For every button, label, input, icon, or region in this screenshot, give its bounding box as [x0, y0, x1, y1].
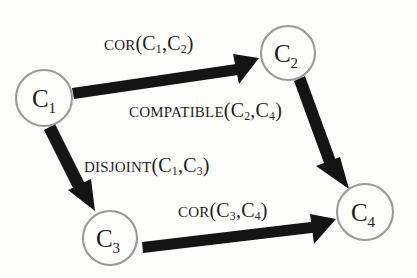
edge-label-disjoint-c1-c3-comma: ,C	[178, 154, 197, 176]
edge-label-disjoint-c1-c3-predicate: Disjoint	[84, 153, 151, 177]
edge-label-compatible-c2-c4: Compatible(C2,C4)	[129, 100, 282, 122]
edge-label-compatible-c2-c4-predicate: Compatible	[129, 98, 224, 122]
edge-label-cor-c3-c4-close: )	[261, 199, 268, 221]
edge-label-disjoint-c1-c3-close: )	[203, 154, 210, 176]
edge-cor-c3-c4-shaft	[142, 221, 320, 253]
edge-compatible-c2-c4-shaft	[294, 76, 339, 174]
edge-label-cor-c3-c4-comma: ,C	[236, 199, 255, 221]
edge-label-cor-c1-c2: Cor(C1,C2)	[104, 33, 194, 55]
edge-label-disjoint-c1-c3: Disjoint(C1,C3)	[84, 155, 210, 177]
edge-label-cor-c1-c2-open: (C	[135, 32, 155, 54]
edge-label-compatible-c2-c4-close: )	[275, 99, 282, 121]
edge-label-cor-c1-c2-predicate: Cor	[104, 31, 135, 55]
edge-cor-c1-c2-arrowhead	[233, 54, 259, 84]
node-c3-label: C3	[96, 225, 120, 256]
node-c1[interactable]: C1	[16, 70, 72, 126]
node-c3[interactable]: C3	[83, 211, 137, 265]
node-c1-label: C1	[32, 85, 56, 116]
edge-label-compatible-c2-c4-comma: ,C	[250, 99, 269, 121]
node-c4[interactable]: C4	[337, 184, 393, 240]
edge-label-cor-c3-c4-open: (C	[209, 199, 229, 221]
edge-label-cor-c3-c4: Cor(C3,C4)	[178, 200, 268, 222]
edge-cor-c1-c2	[72, 54, 259, 99]
node-c4-label: C4	[351, 199, 376, 230]
edge-cor-c1-c2-shaft	[72, 63, 245, 99]
edge-label-cor-c1-c2-comma: ,C	[162, 32, 181, 54]
edge-cor-c3-c4-arrowhead	[310, 214, 336, 244]
edge-label-cor-c3-c4-predicate: Cor	[178, 198, 209, 222]
edge-compatible-c2-c4-arrowhead	[316, 157, 349, 189]
edge-label-disjoint-c1-c3-open: (C	[151, 154, 171, 176]
diagram-graphics: C1 C2 C3 C4	[0, 0, 417, 278]
node-c2[interactable]: C2	[261, 26, 315, 80]
node-c2-label: C2	[274, 40, 298, 71]
edge-compatible-c2-c4	[294, 76, 349, 189]
edge-label-compatible-c2-c4-open: (C	[224, 99, 244, 121]
edge-label-cor-c1-c2-close: )	[187, 32, 194, 54]
diagram-canvas: C1 C2 C3 C4 Cor(C1,C2) Compatible(C2,C4)…	[0, 0, 417, 278]
